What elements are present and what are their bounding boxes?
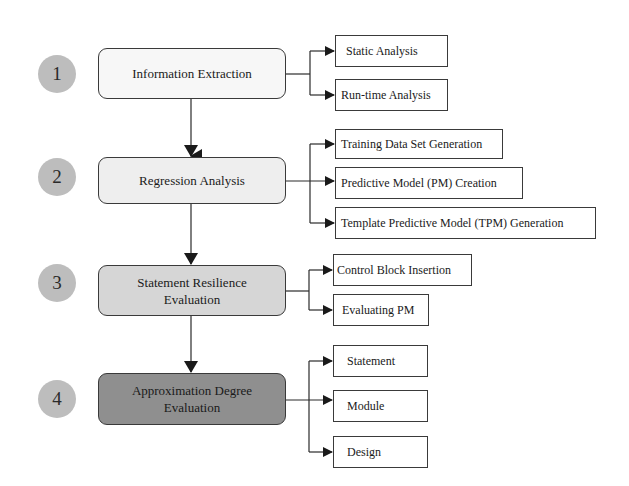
substep-label: Module (347, 399, 384, 414)
step-number: 3 (52, 272, 62, 294)
step-number: 4 (52, 388, 62, 410)
step-label-line: Evaluation (164, 291, 220, 308)
substep-statement: Statement (333, 345, 428, 377)
substep-label: Predictive Model (PM) Creation (341, 176, 497, 191)
substep-label: Run-time Analysis (341, 88, 431, 103)
substep-training-data-set-generation: Training Data Set Generation (335, 129, 503, 159)
substep-control-block-insertion: Control Block Insertion (333, 254, 472, 286)
connector-lines (0, 0, 629, 486)
step-label-line: Evaluation (164, 399, 220, 416)
substep-label: Design (347, 445, 381, 460)
step-number-badge: 2 (38, 158, 76, 196)
arrow-down-icon (184, 145, 198, 157)
step-number-badge: 3 (38, 264, 76, 302)
step-number-badge: 1 (38, 55, 76, 93)
flow-diagram: 1 2 3 4 Information Extraction Regressio… (0, 0, 629, 486)
step-label-line: Statement Resilience (137, 274, 246, 291)
substep-template-predictive-model-generation: Template Predictive Model (TPM) Generati… (335, 207, 596, 239)
step-label: Regression Analysis (139, 172, 245, 189)
substep-label: Control Block Insertion (337, 263, 451, 278)
substep-run-time-analysis: Run-time Analysis (335, 79, 448, 111)
substep-label: Template Predictive Model (TPM) Generati… (341, 216, 563, 231)
substep-label: Static Analysis (346, 44, 418, 59)
substep-module: Module (333, 390, 428, 422)
step-number-badge: 4 (38, 380, 76, 418)
substep-static-analysis: Static Analysis (335, 35, 448, 67)
step-label: Information Extraction (132, 65, 252, 82)
substep-label: Evaluating PM (342, 303, 414, 318)
substep-evaluating-pm: Evaluating PM (333, 294, 429, 326)
step-box-regression-analysis: Regression Analysis (98, 157, 286, 204)
substep-design: Design (333, 436, 428, 468)
arrow-down-icon (184, 361, 198, 373)
step-box-statement-resilience-evaluation: Statement Resilience Evaluation (98, 265, 286, 316)
arrow-down-icon (184, 253, 198, 265)
step-number: 1 (52, 63, 62, 85)
step-box-approximation-degree-evaluation: Approximation Degree Evaluation (98, 373, 286, 425)
step-label-line: Approximation Degree (132, 382, 252, 399)
step-number: 2 (52, 166, 62, 188)
step-box-information-extraction: Information Extraction (98, 48, 286, 99)
substep-label: Training Data Set Generation (341, 137, 482, 152)
substep-predictive-model-creation: Predictive Model (PM) Creation (335, 167, 523, 199)
substep-label: Statement (347, 354, 395, 369)
